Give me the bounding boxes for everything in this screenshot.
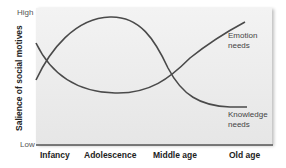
y-label-high: High <box>17 8 33 17</box>
chart-curves <box>0 0 286 168</box>
x-tick-middle-age: Middle age <box>153 150 197 160</box>
emotion-needs-curve <box>36 22 245 93</box>
knowledge-label-line1: Knowledge <box>228 110 268 120</box>
knowledge-needs-curve <box>36 17 247 107</box>
x-tick-old-age: Old age <box>229 150 260 160</box>
y-axis-title: Salience of social motives <box>14 31 24 131</box>
emotion-label-line1: Emotion <box>228 31 257 41</box>
x-tick-infancy: Infancy <box>40 150 70 160</box>
knowledge-label-line2: needs <box>228 120 268 130</box>
emotion-label-line2: needs <box>228 41 257 51</box>
emotion-needs-label: Emotion needs <box>228 31 257 51</box>
y-label-low: Low <box>20 140 35 149</box>
x-tick-adolescence: Adolescence <box>84 150 136 160</box>
knowledge-needs-label: Knowledge needs <box>228 110 268 130</box>
